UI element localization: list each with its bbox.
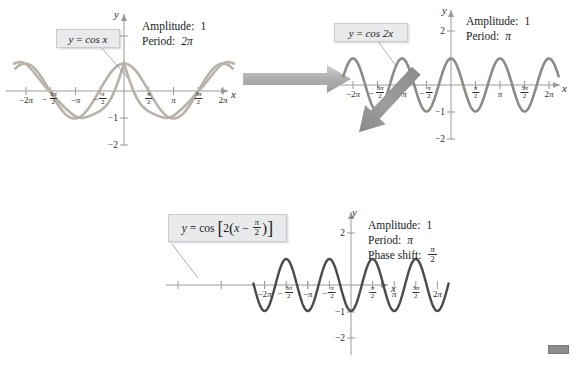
- y-tick-label: −2: [108, 140, 118, 150]
- x-tick-label: π: [498, 89, 503, 99]
- y-tick-label: −1: [435, 107, 445, 117]
- info-amplitude: Amplitude: 1: [142, 19, 206, 34]
- formula-eq: =: [76, 33, 82, 45]
- phase-frac-den: 2: [428, 254, 436, 264]
- formula-minus: −: [242, 222, 249, 234]
- formula-callout-3: y = cos [2(x − π2)]: [168, 214, 287, 242]
- formula-frac-den: 2: [253, 227, 261, 237]
- x-tick-label: 3π2: [518, 86, 531, 101]
- y-tick-label: −2: [435, 134, 445, 144]
- formula-callout-2: y = cos 2x: [334, 23, 408, 42]
- formula-callout-1: y = cos x: [56, 29, 120, 48]
- panel-3-info: Amplitude: 1 Period: π Phase shift: π2: [368, 218, 438, 263]
- x-tick-label: π: [171, 95, 176, 105]
- x-axis-label: x: [391, 282, 396, 294]
- info-period: Period: π: [466, 29, 530, 44]
- panel-1-info: Amplitude: 1 Period: 2π: [142, 19, 206, 49]
- formula-var: x: [234, 222, 239, 234]
- x-tick-label: −2π: [346, 89, 360, 99]
- y-tick-label: −1: [335, 307, 345, 317]
- x-tick-label: −π2: [93, 92, 108, 107]
- x-tick-label: 3π2: [409, 286, 422, 301]
- formula-rhs: cos x: [85, 33, 107, 45]
- panel-cos-2x-shifted: 2 −1 −2 y y = cos [2(x − π2)] Amplitude:…: [160, 200, 430, 367]
- formula-lhs: y: [349, 27, 354, 39]
- y-tick-label: 2: [440, 26, 445, 36]
- x-tick-label: π2: [471, 86, 481, 101]
- y-axis-label: y: [114, 8, 119, 20]
- x-tick-label: −3π2: [277, 286, 295, 301]
- formula-cos: cos: [199, 222, 214, 234]
- info-amplitude: Amplitude: 1: [368, 218, 438, 233]
- panel-1-curve: [0, 0, 250, 150]
- x-tick-label: 2π: [544, 89, 553, 99]
- x-tick-label: −3π2: [42, 92, 60, 107]
- x-tick-label: π2: [144, 92, 154, 107]
- panel-2-info: Amplitude: 1 Period: π: [466, 14, 530, 44]
- x-tick-label: 3π2: [192, 92, 205, 107]
- info-phase-shift: Phase shift: π2: [368, 248, 438, 263]
- formula-frac-num: π: [253, 218, 262, 227]
- formula-eq: =: [356, 27, 362, 39]
- formula-bracket-close: ]: [267, 218, 273, 239]
- info-period: Period: 2π: [142, 34, 206, 49]
- x-tick-label: π2: [368, 286, 378, 301]
- x-tick-label: 2π: [433, 289, 442, 299]
- corner-marker: [548, 345, 569, 354]
- formula-rhs: cos 2x: [365, 27, 393, 39]
- formula-eq: =: [190, 222, 197, 234]
- x-tick-label: −π2: [419, 86, 434, 101]
- formula-lhs: y: [69, 33, 74, 45]
- x-tick-label: 2π: [218, 95, 227, 105]
- x-tick-label: −π2: [322, 286, 337, 301]
- info-amplitude: Amplitude: 1: [466, 14, 530, 29]
- y-axis-label: y: [352, 206, 357, 218]
- panel-cos-x: −2π −3π2 −π −π2 π2 π 3π2 2π 2 −1 −2 x y …: [0, 0, 250, 150]
- y-tick-label: −1: [108, 113, 118, 123]
- phase-frac-num: π: [428, 245, 437, 254]
- y-tick-label: 2: [340, 228, 345, 238]
- x-tick-label: −π: [303, 289, 313, 299]
- formula-lhs: y: [182, 222, 187, 234]
- x-tick-label: −2π: [258, 289, 272, 299]
- y-axis-label: y: [442, 4, 447, 16]
- x-axis-label: x: [562, 82, 567, 94]
- x-tick-label: −π: [71, 95, 81, 105]
- x-tick-label: −2π: [19, 95, 33, 105]
- y-tick-label: −2: [335, 333, 345, 343]
- x-axis-label: x: [231, 88, 236, 100]
